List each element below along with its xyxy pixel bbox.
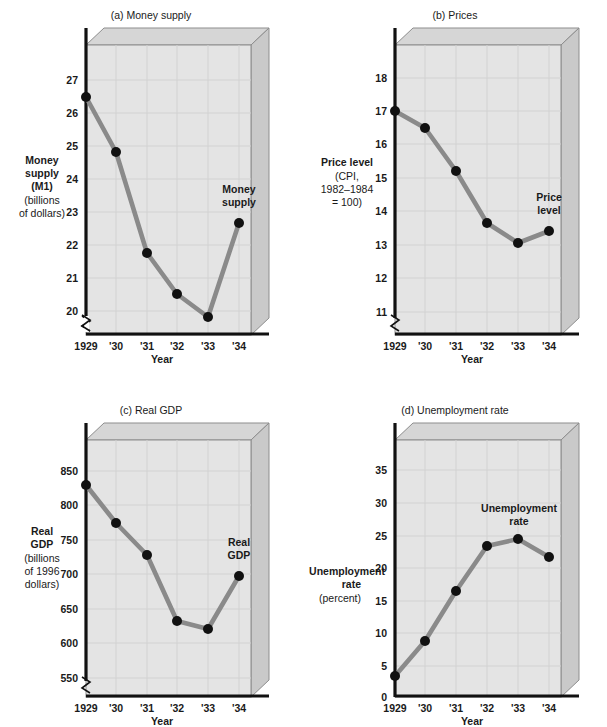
series-label-line2: GDP	[228, 549, 251, 561]
data-point	[482, 541, 492, 551]
x-tick-label: '32	[480, 340, 494, 352]
data-point	[420, 123, 430, 133]
y-tick-label: 12	[375, 272, 387, 284]
money-supply-svg: (a) Money supply	[0, 0, 303, 363]
prices-svg: (b) Prices	[303, 0, 607, 363]
unemployment-rate-svg: (d) Unemployment rate	[303, 363, 607, 727]
y-tick-label: 21	[66, 272, 78, 284]
x-tick-label: '32	[480, 702, 494, 714]
panel-title-d: (d) Unemployment rate	[401, 404, 509, 416]
data-point	[111, 147, 121, 157]
plot-area-background	[86, 440, 251, 697]
y-axis-subtitle-line: dollars)	[25, 578, 59, 590]
y-tick-label: 25	[66, 140, 78, 152]
y-axis-title-line: Unemployment	[309, 565, 385, 577]
y-tick-label: 22	[66, 239, 78, 251]
data-point	[81, 92, 91, 102]
x-tick-label: '34	[542, 702, 556, 714]
panel-title-b: (b) Prices	[433, 9, 478, 21]
y-axis-subtitle-line: of 1996	[24, 565, 59, 577]
y-tick-label: 550	[60, 672, 78, 684]
x-tick-label: '31	[449, 702, 463, 714]
data-point	[81, 480, 91, 490]
y-tick-label: 15	[375, 172, 387, 184]
y-tick-label: 700	[60, 568, 78, 580]
x-tick-label: '31	[449, 340, 463, 352]
y-tick-label: 750	[60, 534, 78, 546]
chart-panel-money-supply: (a) Money supply	[0, 0, 303, 363]
x-axis-title: Year	[461, 353, 483, 363]
y-axis-subtitle-line: (CPI,	[335, 170, 359, 182]
chart-panel-real-gdp: (c) Real GDP	[0, 363, 303, 727]
data-point	[482, 218, 492, 228]
y-tick-label: 23	[66, 206, 78, 218]
y-tick-label: 18	[375, 72, 387, 84]
x-tick-label: '34	[542, 340, 556, 352]
y-tick-label: 27	[66, 74, 78, 86]
panel-title-c: (c) Real GDP	[120, 404, 182, 416]
y-tick-label: 30	[375, 497, 387, 509]
x-tick-label: '32	[170, 702, 184, 714]
x-tick-label: '30	[109, 340, 123, 352]
x-tick-label: '32	[170, 340, 184, 352]
y-tick-label: 600	[60, 637, 78, 649]
y-axis-title-line: Real	[31, 525, 53, 537]
x-tick-label: '33	[511, 340, 525, 352]
y-axis-subtitle-line: (percent)	[319, 592, 361, 604]
y-axis-title-line: Money	[25, 154, 58, 166]
x-tick-label: '34	[232, 702, 246, 714]
x-tick-label: '30	[109, 702, 123, 714]
x-tick-label: '33	[201, 340, 215, 352]
y-tick-label: 10	[375, 627, 387, 639]
x-tick-label: 1929	[383, 702, 407, 714]
x-axis-title: Year	[461, 715, 483, 727]
x-axis-title: Year	[151, 353, 173, 363]
y-tick-label: 24	[66, 173, 78, 185]
data-point	[142, 550, 152, 560]
x-axis-title: Year	[151, 715, 173, 727]
data-point	[451, 166, 461, 176]
series-label-line2: level	[537, 204, 560, 216]
y-axis-title-line: rate	[342, 578, 361, 590]
x-tick-label: '31	[140, 702, 154, 714]
data-point	[142, 248, 152, 258]
panel-3d-right-face	[561, 423, 579, 697]
x-tick-label: '34	[232, 340, 246, 352]
data-point	[390, 671, 400, 681]
x-tick-label: 1929	[74, 702, 98, 714]
y-axis-subtitle-line: = 100)	[332, 196, 362, 208]
data-point	[390, 106, 400, 116]
panel-3d-top-face	[86, 28, 269, 45]
y-axis-title-line: (M1)	[31, 180, 53, 192]
y-axis-subtitle-line: 1982–1984	[321, 183, 374, 195]
y-tick-label: 15	[375, 595, 387, 607]
panel-3d-right-face	[561, 28, 579, 335]
data-point	[172, 289, 182, 299]
y-axis-subtitle-line: (billions	[24, 194, 60, 206]
x-tick-label: '30	[418, 702, 432, 714]
y-axis-subtitle-line: (billions	[24, 552, 60, 564]
y-tick-label: 11	[376, 306, 387, 318]
panel-3d-right-face	[251, 28, 269, 335]
y-tick-label: 26	[66, 107, 78, 119]
panel-3d-top-face	[395, 28, 579, 45]
data-point	[203, 312, 213, 322]
chart-panel-prices: (b) Prices	[303, 0, 607, 363]
data-point	[234, 218, 244, 228]
y-tick-label: 35	[375, 464, 387, 476]
y-axis-title-line: GDP	[31, 538, 54, 550]
panel-title-a: (a) Money supply	[111, 9, 192, 21]
x-tick-label: '30	[418, 340, 432, 352]
panel-3d-top-face	[86, 423, 269, 440]
x-tick-label: 1929	[74, 340, 98, 352]
y-tick-label: 5	[381, 660, 387, 672]
data-point	[420, 636, 430, 646]
series-label-line1: Unemployment	[481, 502, 557, 514]
y-axis-title-line: Price level	[321, 156, 373, 168]
y-tick-label: 800	[60, 499, 78, 511]
x-tick-label: 1929	[383, 340, 407, 352]
real-gdp-svg: (c) Real GDP	[0, 363, 303, 727]
y-tick-label: 850	[60, 465, 78, 477]
y-tick-label: 650	[60, 603, 78, 615]
data-point	[111, 518, 121, 528]
